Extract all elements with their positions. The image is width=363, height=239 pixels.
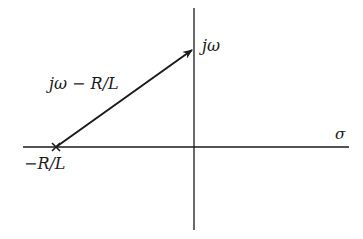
vector-label: jω − R/L [49, 76, 119, 92]
s-plane-diagram [0, 0, 363, 239]
jw-axis-label: jω [202, 38, 220, 54]
pole-label: −R/L [24, 156, 65, 172]
sigma-axis-label: σ [335, 127, 345, 142]
vector-arrow [56, 50, 192, 147]
